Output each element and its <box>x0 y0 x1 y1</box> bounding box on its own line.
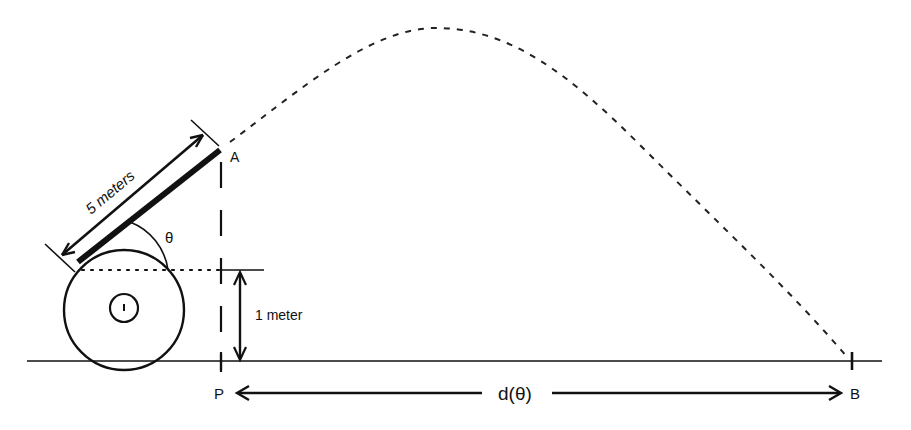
angle-label: θ <box>165 229 173 246</box>
trajectory-path <box>230 28 848 358</box>
distance-label: d(θ) <box>498 383 532 404</box>
projectile-diagram: θ 5 meters A 1 meter P B d(θ) <box>0 0 911 430</box>
point-b-label: B <box>850 385 860 402</box>
distance-arrow <box>237 386 841 400</box>
height-label: 1 meter <box>255 307 303 323</box>
point-a-label: A <box>230 149 240 165</box>
cannon-wheel <box>64 250 184 370</box>
point-p-label: P <box>214 385 224 402</box>
height-dimension <box>234 272 246 360</box>
length-dimension <box>45 120 219 272</box>
length-label: 5 meters <box>82 166 138 217</box>
